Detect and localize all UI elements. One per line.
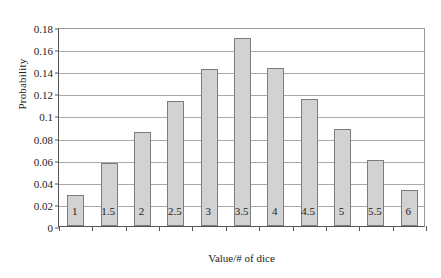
x-axis-tick-label: 5.5 [368, 205, 382, 217]
x-axis-tick-label: 1.5 [101, 205, 115, 217]
x-axis-tick-mark [92, 226, 93, 231]
y-axis-tick-label: 0.04 [34, 178, 53, 190]
y-axis-tick-label: 0.06 [34, 156, 53, 168]
y-axis-tick-label: 0.12 [34, 89, 53, 101]
bar [234, 38, 251, 226]
x-axis-tick-mark [326, 226, 327, 231]
x-axis-tick-mark [259, 226, 260, 231]
x-axis-tick-label: 4.5 [301, 205, 315, 217]
x-axis-tick-label: 5 [339, 205, 345, 217]
bar [201, 69, 218, 226]
y-axis-title: Probability [16, 24, 28, 144]
y-axis-tick-label: 0.02 [34, 200, 53, 212]
x-axis-title: Value/# of dice [58, 252, 425, 264]
y-axis-tick-label: 0.14 [34, 67, 53, 79]
x-axis-tick-mark [359, 226, 360, 231]
probability-bar-chart: Probability 00.020.040.060.080.10.120.14… [0, 0, 441, 278]
plot-area: 00.020.040.060.080.10.120.140.160.18 [58, 28, 425, 227]
bars [59, 29, 424, 226]
y-axis-tick-label: 0.18 [34, 23, 53, 35]
x-axis-tick-mark [59, 226, 60, 231]
x-axis-tick-mark [426, 226, 427, 231]
x-axis-tick-label: 1 [72, 205, 78, 217]
y-axis-tick-label: 0 [48, 222, 54, 234]
x-axis-tick-label: 4 [272, 205, 278, 217]
x-axis-tick-mark [159, 226, 160, 231]
x-axis-tick-label: 6 [406, 205, 412, 217]
y-axis-tick-label: 0.16 [34, 45, 53, 57]
x-axis-tick-label: 3 [205, 205, 211, 217]
x-axis-tick-mark [226, 226, 227, 231]
x-axis-tick-label: 2 [139, 205, 145, 217]
bar [267, 68, 284, 226]
x-axis-tick-label: 3.5 [235, 205, 249, 217]
x-axis-tick-mark [393, 226, 394, 231]
x-axis-tick-label: 2.5 [168, 205, 182, 217]
y-axis-tick-label: 0.08 [34, 134, 53, 146]
x-axis-tick-mark [126, 226, 127, 231]
y-axis-tick-label: 0.1 [39, 111, 53, 123]
x-axis-tick-mark [293, 226, 294, 231]
x-axis-tick-mark [192, 226, 193, 231]
